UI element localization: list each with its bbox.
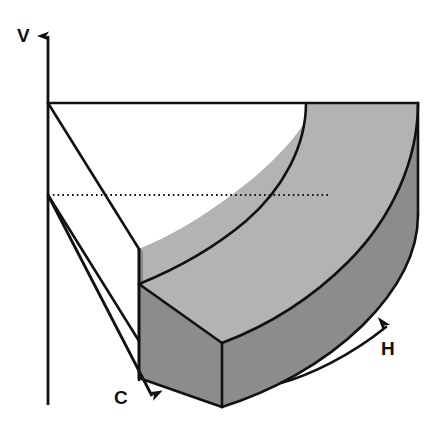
diagram-canvas: [0, 0, 432, 427]
box-bottom-receding-edge: [48, 195, 139, 341]
h-axis-label: H: [381, 339, 395, 358]
v-axis-label: V: [17, 26, 30, 45]
c-axis-line: [48, 195, 152, 396]
box-top-receding-edge: [48, 103, 139, 249]
c-axis-label: C: [114, 388, 128, 407]
figure-root: V C H: [0, 0, 432, 427]
